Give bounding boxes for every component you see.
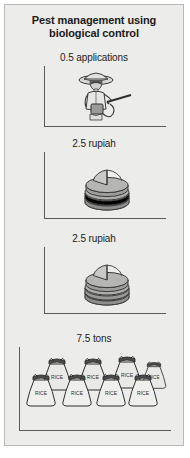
rice-bag-icon: RICE	[125, 371, 161, 409]
rice-bag-icon: RICE	[23, 371, 59, 409]
panel-pesticide-cost-label: 2.5 rupiah	[5, 138, 183, 149]
rice-bag-label: RICE	[105, 390, 118, 396]
coin-stack-icon	[79, 255, 135, 307]
panel-applications: 0.5 applications	[5, 52, 183, 130]
panel-control-cost: 2.5 rupiah	[5, 233, 183, 317]
panel-applications-label: 0.5 applications	[5, 52, 183, 63]
rice-bag-icon: RICE	[59, 371, 95, 409]
panel-yield-label: 7.5 tons	[5, 333, 183, 344]
infographic-panel: Pest management using biological control…	[4, 4, 184, 446]
rice-bag-icon: RICE	[93, 371, 129, 409]
title-line-2: biological control	[5, 27, 183, 40]
panel-control-cost-label: 2.5 rupiah	[5, 233, 183, 244]
title-line-1: Pest management using	[32, 14, 156, 26]
page-title: Pest management using biological control	[5, 14, 183, 39]
rice-bag-label: RICE	[137, 390, 150, 396]
rice-bag-label: RICE	[71, 390, 84, 396]
rice-bag-label: RICE	[35, 390, 48, 396]
rice-bag-group: RICE RICE RICE RICE	[21, 349, 171, 429]
farmer-sprayer-icon	[71, 68, 133, 126]
coin-stack-icon	[79, 160, 135, 212]
panel-yield: 7.5 tons RICE RICE	[5, 333, 183, 438]
panel-pesticide-cost: 2.5 rupiah	[5, 138, 183, 222]
